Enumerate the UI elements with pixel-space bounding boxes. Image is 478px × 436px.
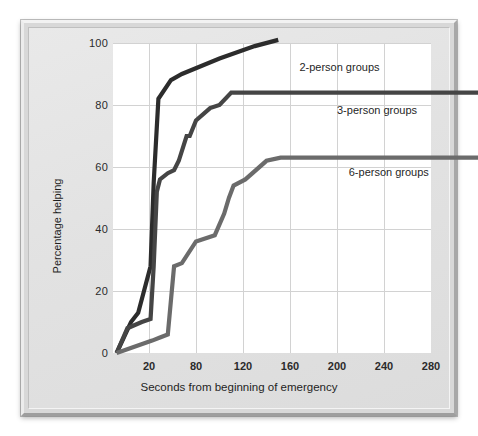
chart-inner-bevel: Percentage helping 020406080100 2-person… <box>28 27 450 409</box>
series-label-3-person: 3-person groups <box>337 104 417 116</box>
chart-figure-frame: Percentage helping 020406080100 2-person… <box>21 20 457 416</box>
y-tick-label: 0 <box>102 347 108 359</box>
series-label-6-person: 6-person groups <box>349 166 429 178</box>
plot-area <box>113 43 431 353</box>
x-tick-label: 200 <box>328 360 346 372</box>
y-tick-label: 80 <box>95 99 108 111</box>
x-tick-label: 240 <box>375 360 393 372</box>
x-tick-label: 160 <box>281 360 299 372</box>
y-tick-label: 60 <box>95 161 108 173</box>
x-tick-label: 80 <box>190 360 202 372</box>
y-tick-label: 100 <box>89 37 108 49</box>
x-tick-label: 280 <box>422 360 440 372</box>
chart-plate: Percentage helping 020406080100 2-person… <box>29 28 449 408</box>
series-line-3 <box>117 158 478 353</box>
x-tick-label: 20 <box>143 360 155 372</box>
y-axis-title: Percentage helping <box>51 179 63 274</box>
y-axis-ticks: 020406080100 <box>77 43 108 353</box>
y-tick-label: 40 <box>95 223 108 235</box>
series-label-2-person: 2-person groups <box>299 61 379 73</box>
x-axis-ticks: 2080120160200240280 <box>113 360 431 376</box>
y-tick-label: 20 <box>95 285 108 297</box>
series-line-1 <box>117 40 279 353</box>
x-axis-title: Seconds from beginning of emergency <box>29 381 449 393</box>
x-tick-label: 120 <box>234 360 252 372</box>
series-lines <box>113 43 431 353</box>
